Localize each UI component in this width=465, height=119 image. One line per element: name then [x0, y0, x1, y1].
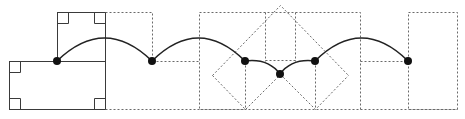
node-1	[53, 57, 61, 65]
dashed-right-box	[409, 13, 458, 110]
arc-2	[152, 38, 245, 61]
right-angle-marker	[10, 99, 21, 110]
geometry-diagram	[0, 0, 465, 119]
node-2	[148, 57, 156, 65]
node-4	[276, 70, 284, 78]
right-angle-marker	[95, 99, 106, 110]
right-angle-marker	[10, 62, 21, 73]
arc-4	[280, 61, 315, 74]
dashed-center-box	[200, 13, 361, 110]
node-set	[53, 57, 412, 78]
dashed-diamond-left-lower	[213, 75, 281, 110]
arc-3	[245, 61, 280, 74]
arc-1	[57, 38, 152, 61]
dashed-diamond-upper	[213, 6, 349, 76]
node-3	[241, 57, 249, 65]
right-angle-marker	[95, 13, 106, 24]
node-6	[404, 57, 412, 65]
right-angle-marker	[58, 13, 69, 24]
node-5	[311, 57, 319, 65]
dashed-diamond-right-lower	[281, 75, 349, 110]
arc-5	[315, 38, 408, 61]
arc-chain	[57, 38, 408, 74]
left-box	[10, 62, 106, 110]
